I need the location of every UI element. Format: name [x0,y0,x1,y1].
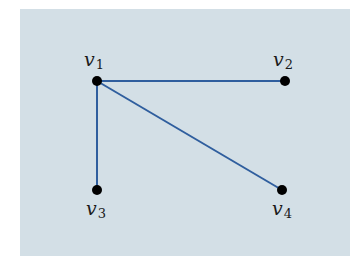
node-v4 [277,185,287,195]
label-v2: v2 [273,48,293,72]
node-v1 [92,76,102,86]
edge-v1-v4 [97,81,282,190]
label-v3: v3 [86,197,106,221]
graph-diagram: v1 v2 v3 v4 [0,0,363,265]
edges [97,81,285,190]
node-v3 [92,185,102,195]
node-v2 [280,76,290,86]
label-v1: v1 [84,48,104,72]
label-v4: v4 [272,197,292,221]
